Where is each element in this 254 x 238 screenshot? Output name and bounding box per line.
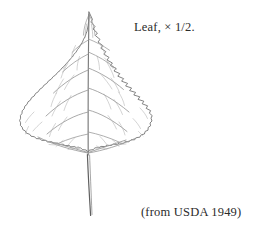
- scale-caption: Leaf, × 1/2.: [134, 20, 195, 35]
- leaf-illustration: [0, 0, 254, 238]
- source-caption: (from USDA 1949): [141, 205, 241, 220]
- figure-page: Leaf, × 1/2. (from USDA 1949): [0, 0, 254, 238]
